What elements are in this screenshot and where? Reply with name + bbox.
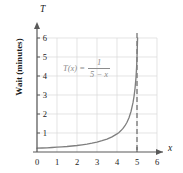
function-curve [37,38,138,148]
equation-fraction: 1 5 − x [88,58,110,78]
horizontal-axis-name: x [168,143,172,153]
y-tick-label-3: 3 [27,90,47,100]
y-tick-label-6: 6 [27,33,47,43]
x-tick-label-6: 6 [151,157,163,167]
y-axis-caption: Wait (minutes) [14,12,24,122]
y-tick-label-4: 4 [27,71,47,81]
x-tick-label-4: 4 [111,157,123,167]
fraction-denominator: 5 − x [88,69,110,79]
x-tick-label-0: 0 [31,157,43,167]
fraction-numerator: 1 [95,58,103,68]
grid-lines [37,38,157,152]
y-tick-label-1: 1 [27,128,47,138]
vertical-axis-name: T [40,4,45,14]
x-tick-label-2: 2 [71,157,83,167]
x-axis [33,149,163,155]
y-tick-label-5: 5 [27,52,47,62]
x-tick-label-3: 3 [91,157,103,167]
x-tick-label-1: 1 [51,157,63,167]
equation-left-side: T(x) = [63,63,85,73]
x-tick-label-5: 5 [131,157,143,167]
function-equation-annotation: T(x) = 1 5 − x [63,58,110,78]
plot-canvas [0,0,183,173]
wait-time-function-figure: Wait (minutes) [0,0,183,173]
y-tick-label-2: 2 [27,109,47,119]
